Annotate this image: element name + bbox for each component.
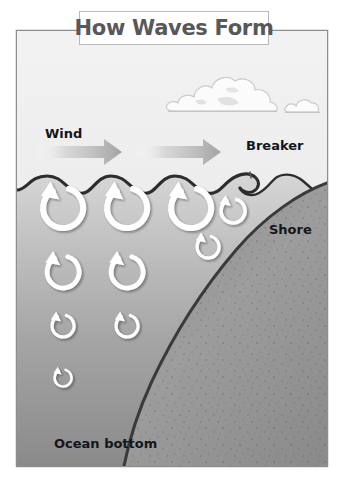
how-waves-form-illustration [0,0,347,484]
label-shore: Shore [269,223,312,236]
title-box: How Waves Form [79,11,269,45]
diagram-content [17,31,327,466]
diagram-canvas [0,0,347,484]
page-title: How Waves Form [75,18,274,39]
label-wind: Wind [45,127,82,140]
spray-tick-icon [250,172,251,178]
label-ocean-bottom: Ocean bottom [54,437,157,450]
label-breaker: Breaker [246,139,303,152]
